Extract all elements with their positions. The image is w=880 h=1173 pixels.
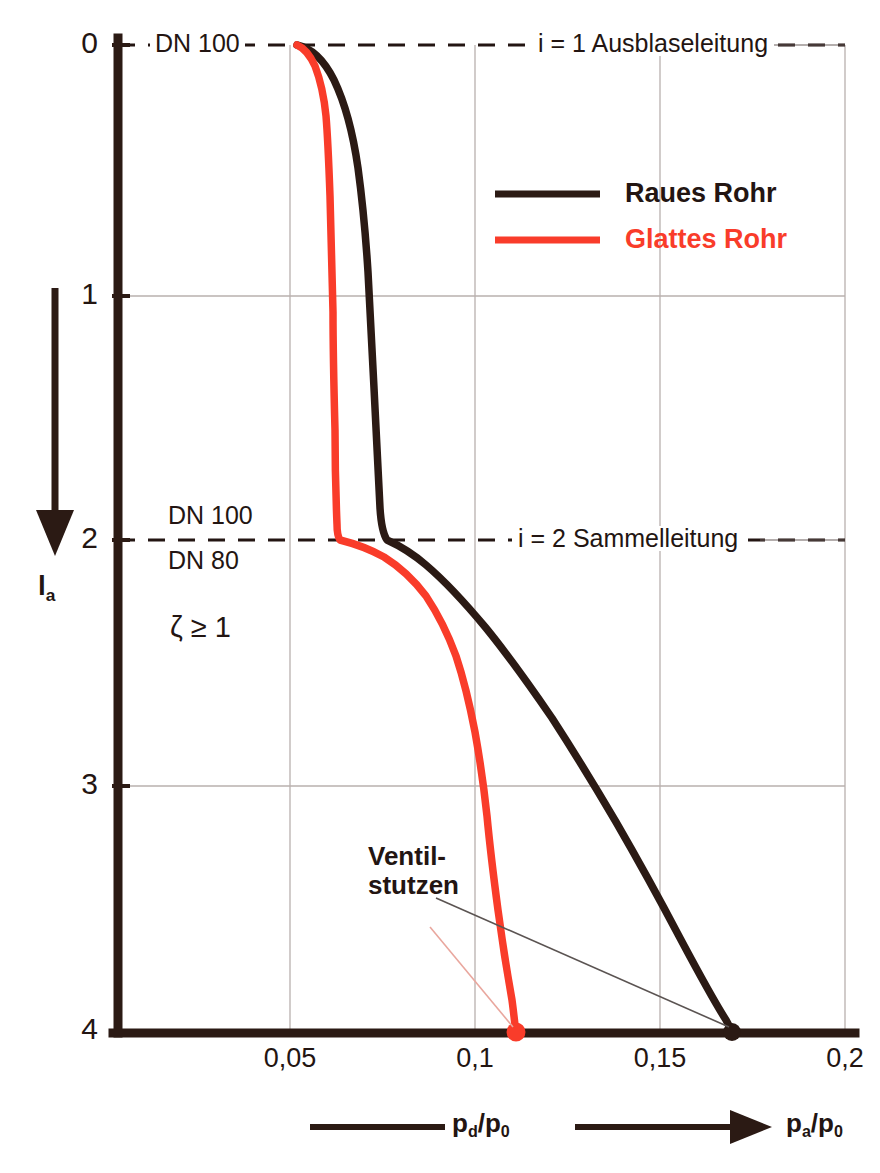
y-axis-title-subscript: a [46,585,56,605]
legend-label-glattes-rohr: Glattes Rohr [625,226,787,253]
x-tick-label-015: 0,15 [605,1045,715,1072]
endpoint-marker-glattes-rohr [507,1023,526,1042]
x-axis-title-pd-p0: pd/p0 [452,1110,510,1136]
y-axis-title: la [38,572,55,600]
x-axis-title-pd-den-sub: 0 [501,1122,510,1140]
chart-root: 0 1 2 3 4 la 0,05 0,1 0,15 0,2 pd/p0 pa/… [0,0,880,1173]
legend-swatches [495,194,600,240]
y-tick-label-1: 1 [58,279,98,309]
x-tick-label-005: 0,05 [235,1045,345,1072]
annotation-dn-100-mid: DN 100 [168,503,253,528]
annotation-i1-ausblaseleitung: i = 1 Ausblaseleitung [532,31,774,56]
callout-ventilstutzen: Ventil- stutzen [368,842,459,900]
x-axis-title-pd-main: p [452,1108,468,1138]
reference-label-connectors [760,45,845,540]
callout-ventilstutzen-line2: stutzen [368,871,459,900]
x-tick-label-01: 0,1 [420,1045,530,1072]
y-tick-label-3: 3 [58,769,98,799]
annotation-dn-100-top: DN 100 [150,31,245,56]
x-axis-title-pa-den: /p [811,1108,834,1138]
x-axis-title-pa-sub: a [802,1122,811,1140]
x-axis-title-pa-p0: pa/p0 [786,1110,843,1136]
x-axis-title-pa-main: p [786,1108,802,1138]
callout-ventilstutzen-line1: Ventil- [368,842,459,871]
x-axis-direction-arrow [310,1110,772,1144]
y-tick-label-2: 2 [58,523,98,553]
y-tick-label-0: 0 [58,28,98,58]
x-axis-title-pa-den-sub: 0 [834,1122,843,1140]
chart-canvas [0,0,880,1173]
y-axis-title-main: l [38,570,46,601]
annotation-zeta: ζ ≥ 1 [170,613,231,642]
y-axis-direction-arrow [36,288,74,556]
y-tick-label-4: 4 [58,1014,98,1044]
x-tick-label-02: 0,2 [790,1045,880,1072]
x-axis-title-pd-sub: d [468,1122,478,1140]
annotation-i2-sammelleitung: i = 2 Sammelleitung [512,526,744,551]
annotation-dn-80: DN 80 [168,548,239,573]
x-axis-title-pd-den: /p [478,1108,501,1138]
legend-label-raues-rohr: Raues Rohr [625,180,777,207]
